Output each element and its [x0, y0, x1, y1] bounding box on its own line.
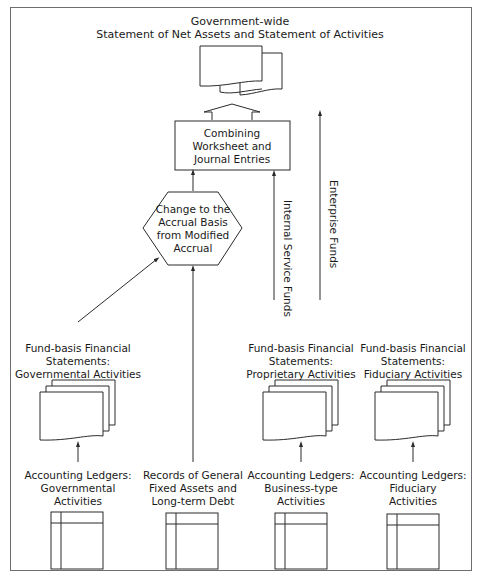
business-type-ledger-icon: [275, 513, 327, 569]
fiduciary-ledgers-label: Accounting Ledgers: Fiduciary Activities: [359, 469, 466, 508]
label-line: Fixed Assets and: [143, 482, 243, 495]
fiduciary-ledger-icon: [387, 514, 439, 569]
label-line: Statements:: [15, 355, 141, 368]
label-line: Governmental: [24, 482, 131, 495]
label-line: Fiduciary: [359, 482, 466, 495]
hexagon-line-2: Accrual Basis: [156, 216, 231, 229]
governmental-ledger-icon: [51, 512, 103, 569]
governmental-statements-icon: [40, 380, 115, 440]
combining-line-2: Worksheet and: [193, 140, 272, 153]
combining-line-1: Combining: [193, 127, 272, 140]
business-type-ledgers-label: Accounting Ledgers: Business-type Activi…: [247, 469, 354, 508]
fixed-assets-ledger-icon: [166, 513, 218, 569]
combining-worksheet-label: Combining Worksheet and Journal Entries: [193, 127, 272, 166]
fiduciary-statements-icon: [375, 380, 450, 440]
label-line: Statements:: [246, 355, 355, 368]
hexagon-line-4: Accrual: [156, 242, 231, 255]
enterprise-funds-label: Enterprise Funds: [328, 180, 340, 268]
label-line: Accounting Ledgers:: [247, 469, 354, 482]
label-line: Accounting Ledgers:: [359, 469, 466, 482]
label-line: Fund-basis Financial: [246, 342, 355, 355]
label-line: Statements:: [360, 355, 466, 368]
label-line: Records of General: [143, 469, 243, 482]
governmental-ledgers-label: Accounting Ledgers: Governmental Activit…: [24, 469, 131, 508]
internal-service-funds-label: Internal Service Funds: [282, 200, 294, 317]
governmental-to-hexagon-arrow: [78, 259, 157, 322]
hexagon-line-3: from Modified: [156, 229, 231, 242]
diagram-title: Government-wide Statement of Net Assets …: [96, 15, 383, 41]
label-line: Activities: [24, 495, 131, 508]
governmental-statements-label: Fund-basis Financial Statements: Governm…: [15, 342, 141, 381]
title-line-1: Government-wide: [96, 15, 383, 28]
combining-line-3: Journal Entries: [193, 153, 272, 166]
label-line: Fund-basis Financial: [15, 342, 141, 355]
hexagon-line-1: Change to the: [156, 203, 231, 216]
title-line-2: Statement of Net Assets and Statement of…: [96, 28, 383, 41]
label-line: Activities: [359, 495, 466, 508]
fiduciary-statements-label: Fund-basis Financial Statements: Fiducia…: [360, 342, 466, 381]
label-line: Governmental Activities: [15, 368, 141, 381]
label-line: Accounting Ledgers:: [24, 469, 131, 482]
hollow-arrow-icon: [204, 104, 260, 120]
label-line: Proprietary Activities: [246, 368, 355, 381]
proprietary-statements-icon: [263, 380, 338, 440]
label-line: Fund-basis Financial: [360, 342, 466, 355]
label-line: Business-type: [247, 482, 354, 495]
label-line: Fiduciary Activities: [360, 368, 466, 381]
proprietary-statements-label: Fund-basis Financial Statements: Proprie…: [246, 342, 355, 381]
label-line: Long-term Debt: [143, 495, 243, 508]
accrual-change-label: Change to the Accrual Basis from Modifie…: [156, 203, 231, 255]
government-wide-statements-icon: [200, 46, 282, 95]
fixed-assets-records-label: Records of General Fixed Assets and Long…: [143, 469, 243, 508]
label-line: Activities: [247, 495, 354, 508]
